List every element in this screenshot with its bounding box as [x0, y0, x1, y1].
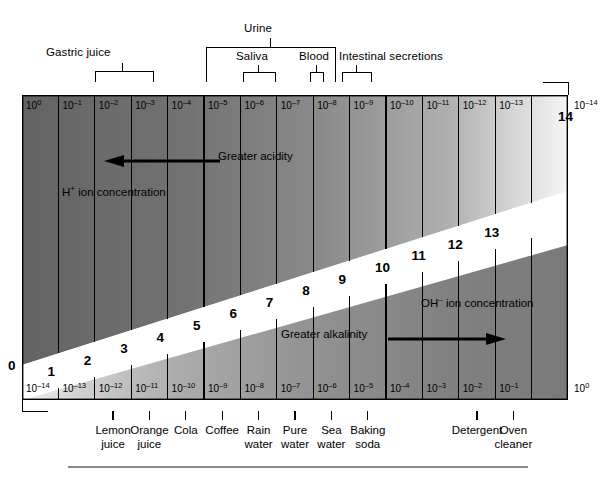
exponent-base: 10 [281, 100, 292, 111]
exponent-power: –2 [474, 381, 482, 390]
exponent-base: 10 [172, 383, 183, 394]
gastric-bracket-left [95, 71, 96, 82]
top-exponent-5: 10–5 [208, 100, 227, 111]
exponent-power: –6 [328, 381, 336, 390]
annotation-greater-acidity: Greater acidity [218, 150, 293, 162]
oh-ion-text: ion concentration [443, 297, 534, 309]
ph-number-6: 6 [229, 306, 237, 321]
substance-label-9: Ovencleaner [495, 424, 533, 451]
top-exponent-6: 10–6 [244, 100, 263, 111]
exponent-power: –9 [219, 381, 227, 390]
exponent-base: 10 [317, 100, 328, 111]
alkalinity-arrow-icon [386, 332, 506, 346]
ph-number-0: 0 [8, 358, 16, 373]
annotation-oh-ion-concentration: OH– ion concentration [421, 297, 534, 309]
ph-number-13: 13 [484, 225, 499, 240]
substance-label-line1: Rain [245, 424, 273, 438]
exponent-base: 10 [499, 383, 510, 394]
substance-label-2: Cola [174, 424, 198, 438]
exponent-power: –14 [585, 98, 598, 107]
intestinal-bracket-right [371, 72, 372, 82]
exponent-base: 10 [99, 383, 110, 394]
top-exponent-0: 100 [26, 100, 41, 111]
bottom-exponent-3: 10–11 [135, 383, 158, 394]
substance-label-5: Purewater [281, 424, 309, 451]
top-exponent-7: 10–7 [281, 100, 300, 111]
top-exponent-3: 10–3 [135, 100, 154, 111]
substance-label-line1: Lemon [95, 424, 130, 438]
exponent-power: –5 [365, 381, 373, 390]
exponent-base: 10 [172, 100, 183, 111]
substance-label-line1: Pure [281, 424, 309, 438]
substance-tick-8 [476, 411, 477, 420]
exponent-power: –1 [74, 98, 82, 107]
substance-label-4: Rainwater [245, 424, 273, 451]
bottom-divider-rule [68, 466, 528, 468]
ph-number-12: 12 [448, 237, 463, 252]
exponent-power: –12 [110, 381, 123, 390]
bottom-exponent-5: 10–9 [208, 383, 227, 394]
substance-label-6: Seawater [317, 424, 345, 451]
exponent-power: –10 [183, 381, 196, 390]
top-exponent-9: 10–9 [354, 100, 373, 111]
ph-number-1: 1 [47, 364, 55, 379]
bottom-exponent-8: 10–6 [317, 383, 336, 394]
urine-stem-tick [270, 38, 271, 47]
top-right-corner-stem [568, 82, 569, 95]
exponent-power: –8 [328, 98, 336, 107]
exponent-power: –7 [292, 98, 300, 107]
top-exponent-13: 10–13 [499, 100, 523, 111]
exponent-power: –9 [365, 98, 373, 107]
ph-number-9: 9 [339, 272, 347, 287]
top-exponent-14: 10–14 [574, 100, 598, 111]
bottom-exponent-14: 100 [574, 383, 589, 394]
top-exponent-11: 10–11 [426, 100, 449, 111]
exponent-base: 10 [574, 100, 585, 111]
exponent-power: –2 [110, 98, 118, 107]
exponent-base: 10 [99, 100, 110, 111]
bottom-exponent-10: 10–4 [390, 383, 409, 394]
bottom-exponent-11: 10–3 [426, 383, 445, 394]
exponent-power: –1 [510, 381, 518, 390]
gastric-bracket-bar [95, 71, 154, 72]
exponent-base: 10 [135, 383, 146, 394]
ph-number-14: 14 [558, 109, 573, 124]
substance-tick-0 [112, 411, 113, 420]
saliva-bracket-right [275, 72, 276, 82]
ph-number-11: 11 [411, 248, 425, 263]
exponent-base: 10 [244, 100, 255, 111]
ph-gradient-background [22, 95, 568, 400]
substance-label-line1: Sea [317, 424, 345, 438]
top-exponent-2: 10–2 [99, 100, 118, 111]
substance-label-line1: Baking [350, 424, 385, 438]
exponent-power: –3 [146, 98, 154, 107]
bottom-exponent-7: 10–7 [281, 383, 300, 394]
blood-bracket-left [310, 72, 311, 82]
exponent-base: 10 [574, 383, 585, 394]
h-ion-text: ion concentration [75, 186, 166, 198]
blood-bracket-bar [310, 72, 323, 73]
exponent-base: 10 [354, 383, 365, 394]
intestinal-bracket-bar [342, 72, 371, 73]
exponent-base: 10 [26, 100, 37, 111]
top-label-urine: Urine [244, 22, 272, 34]
bottom-exponent-6: 10–8 [244, 383, 263, 394]
bottom-left-corner-rule [22, 411, 48, 412]
substance-tick-9 [513, 411, 514, 420]
substance-label-7: Bakingsoda [350, 424, 385, 451]
bottom-exponent-2: 10–12 [99, 383, 123, 394]
ph-number-7: 7 [266, 295, 274, 310]
exponent-power: –4 [183, 98, 191, 107]
exponent-base: 10 [135, 100, 146, 111]
ph-number-8: 8 [302, 283, 310, 298]
exponent-power: –13 [74, 381, 87, 390]
exponent-base: 10 [208, 383, 219, 394]
exponent-base: 10 [62, 100, 73, 111]
top-exponent-10: 10–10 [390, 100, 414, 111]
substance-label-line1: Oven [495, 424, 533, 438]
exponent-power: –7 [292, 381, 300, 390]
exponent-base: 10 [463, 383, 474, 394]
top-exponent-12: 10–12 [463, 100, 487, 111]
substance-label-line2: cleaner [495, 438, 533, 452]
exponent-base: 10 [390, 100, 401, 111]
